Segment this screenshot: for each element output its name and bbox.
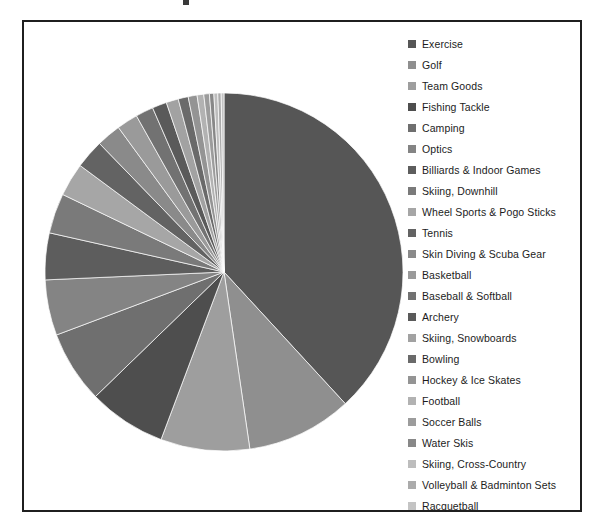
- legend-item[interactable]: Team Goods: [408, 75, 588, 96]
- legend-item[interactable]: Football: [408, 390, 588, 411]
- legend-item[interactable]: Exercise: [408, 33, 588, 54]
- legend-item[interactable]: Billiards & Indoor Games: [408, 159, 588, 180]
- legend-item[interactable]: Soccer Balls: [408, 411, 588, 432]
- legend-item[interactable]: Golf: [408, 54, 588, 75]
- legend-item[interactable]: Racquetball: [408, 495, 588, 516]
- legend-item-label: Racquetball: [422, 500, 479, 512]
- legend-item-label: Baseball & Softball: [422, 290, 512, 302]
- legend-item[interactable]: Tennis: [408, 222, 588, 243]
- legend-item[interactable]: Fishing Tackle: [408, 96, 588, 117]
- legend-swatch-icon: [408, 40, 416, 48]
- legend-item-label: Camping: [422, 122, 465, 134]
- legend-item-label: Soccer Balls: [422, 416, 482, 428]
- legend-item-label: Archery: [422, 311, 459, 323]
- legend-swatch-icon: [408, 292, 416, 300]
- legend-swatch-icon: [408, 208, 416, 216]
- scan-artifact-mark: [183, 0, 189, 5]
- legend-swatch-icon: [408, 145, 416, 153]
- legend-item-label: Volleyball & Badminton Sets: [422, 479, 556, 491]
- legend-item-label: Exercise: [422, 38, 463, 50]
- legend-swatch-icon: [408, 355, 416, 363]
- pie-chart-area: [24, 22, 424, 514]
- legend-item-label: Optics: [422, 143, 452, 155]
- legend-item-label: Golf: [422, 59, 442, 71]
- legend-item[interactable]: Skiing, Snowboards: [408, 327, 588, 348]
- legend-swatch-icon: [408, 397, 416, 405]
- legend-item-label: Bowling: [422, 353, 459, 365]
- legend-swatch-icon: [408, 187, 416, 195]
- legend-item-label: Team Goods: [422, 80, 483, 92]
- legend-item-label: Skiing, Cross-Country: [422, 458, 526, 470]
- legend-swatch-icon: [408, 61, 416, 69]
- legend-item-label: Skiing, Downhill: [422, 185, 498, 197]
- legend-item[interactable]: Optics: [408, 138, 588, 159]
- legend-swatch-icon: [408, 460, 416, 468]
- legend-swatch-icon: [408, 481, 416, 489]
- legend-swatch-icon: [408, 124, 416, 132]
- legend-item[interactable]: Bowling: [408, 348, 588, 369]
- legend-swatch-icon: [408, 166, 416, 174]
- legend-item[interactable]: Basketball: [408, 264, 588, 285]
- legend-swatch-icon: [408, 271, 416, 279]
- legend-swatch-icon: [408, 229, 416, 237]
- legend-swatch-icon: [408, 82, 416, 90]
- chart-frame: ExerciseGolfTeam GoodsFishing TackleCamp…: [22, 20, 582, 512]
- legend-item-label: Skiing, Snowboards: [422, 332, 517, 344]
- legend-swatch-icon: [408, 103, 416, 111]
- legend-item[interactable]: Archery: [408, 306, 588, 327]
- legend-item-label: Football: [422, 395, 460, 407]
- legend-swatch-icon: [408, 439, 416, 447]
- legend-swatch-icon: [408, 502, 416, 510]
- legend-item[interactable]: Water Skis: [408, 432, 588, 453]
- legend-item[interactable]: Volleyball & Badminton Sets: [408, 474, 588, 495]
- legend-swatch-icon: [408, 313, 416, 321]
- legend-item[interactable]: Skin Diving & Scuba Gear: [408, 243, 588, 264]
- legend-item[interactable]: Skiing, Downhill: [408, 180, 588, 201]
- legend-item[interactable]: Hockey & Ice Skates: [408, 369, 588, 390]
- legend-item[interactable]: Skiing, Cross-Country: [408, 453, 588, 474]
- legend-item-label: Water Skis: [422, 437, 473, 449]
- legend-item-label: Fishing Tackle: [422, 101, 490, 113]
- legend-item-label: Billiards & Indoor Games: [422, 164, 541, 176]
- legend-swatch-icon: [408, 376, 416, 384]
- legend-item-label: Wheel Sports & Pogo Sticks: [422, 206, 556, 218]
- legend-item-label: Skin Diving & Scuba Gear: [422, 248, 546, 260]
- legend-swatch-icon: [408, 334, 416, 342]
- pie-chart: [44, 92, 404, 452]
- legend-item-label: Tennis: [422, 227, 453, 239]
- legend-swatch-icon: [408, 250, 416, 258]
- chart-legend: ExerciseGolfTeam GoodsFishing TackleCamp…: [408, 33, 588, 516]
- legend-item-label: Basketball: [422, 269, 471, 281]
- legend-item[interactable]: Wheel Sports & Pogo Sticks: [408, 201, 588, 222]
- legend-item-label: Hockey & Ice Skates: [422, 374, 521, 386]
- legend-item[interactable]: Camping: [408, 117, 588, 138]
- legend-item[interactable]: Baseball & Softball: [408, 285, 588, 306]
- legend-swatch-icon: [408, 418, 416, 426]
